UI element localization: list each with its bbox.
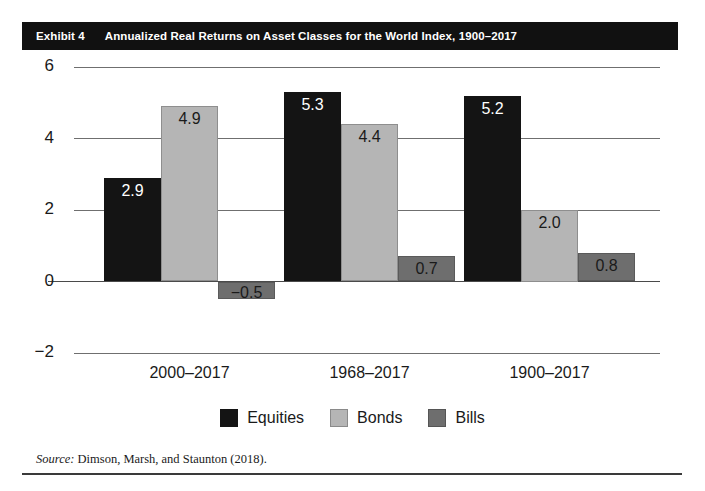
bar-value-label: 5.2	[464, 100, 521, 118]
x-axis-category-label: 1968–2017	[284, 364, 455, 382]
legend-swatch-bills-icon	[428, 409, 446, 427]
source-text: Dimson, Marsh, and Staunton (2018).	[78, 452, 267, 466]
legend-item-bills: Bills	[428, 409, 484, 427]
bar-bills-1	[398, 256, 455, 281]
x-axis-category-label: 1900–2017	[464, 364, 635, 382]
legend-label: Bonds	[357, 409, 402, 427]
bar-bonds-2	[521, 210, 578, 282]
bar-value-label: 0.7	[398, 260, 455, 278]
bar-bonds-0	[161, 106, 218, 281]
gridline-2	[74, 210, 660, 211]
x-axis-category-label: 2000–2017	[104, 364, 275, 382]
chart-legend: EquitiesBondsBills	[0, 409, 705, 427]
bar-value-label: 5.3	[284, 96, 341, 114]
legend-swatch-equities-icon	[220, 409, 238, 427]
bar-bills-0	[218, 282, 275, 300]
axis-zero-line	[48, 281, 660, 282]
bottom-divider	[22, 473, 682, 475]
bar-value-label: 2.0	[521, 214, 578, 232]
bar-value-label: 0.8	[578, 257, 635, 275]
bar-equities-1	[284, 92, 341, 281]
y-axis-tick-label: 6	[14, 56, 54, 76]
legend-label: Equities	[247, 409, 304, 427]
legend-item-equities: Equities	[220, 409, 304, 427]
bar-bonds-1	[341, 124, 398, 281]
bar-equities-0	[104, 178, 161, 282]
gridline-neg2	[74, 353, 660, 354]
legend-swatch-bonds-icon	[330, 409, 348, 427]
legend-label: Bills	[455, 409, 484, 427]
y-axis-tick-label: 0	[14, 271, 54, 291]
bar-value-label: 4.4	[341, 128, 398, 146]
bar-value-label: 2.9	[104, 182, 161, 200]
exhibit-title-text: Annualized Real Returns on Asset Classes…	[105, 30, 517, 42]
exhibit-number-label: Exhibit 4	[36, 30, 85, 42]
bar-bills-2	[578, 253, 635, 282]
gridline-6	[74, 67, 660, 68]
bar-value-label: −0.5	[218, 284, 275, 302]
bar-value-label: 4.9	[161, 110, 218, 128]
y-axis-tick-label: 4	[14, 128, 54, 148]
exhibit-title-bar: Exhibit 4 Annualized Real Returns on Ass…	[22, 22, 678, 50]
source-label: Source:	[36, 452, 74, 466]
source-note: Source: Dimson, Marsh, and Staunton (201…	[36, 452, 267, 467]
bar-equities-2	[464, 96, 521, 282]
legend-item-bonds: Bonds	[330, 409, 402, 427]
y-axis-tick-label: −2	[14, 342, 54, 362]
gridline-4	[74, 138, 660, 139]
y-axis-tick-label: 2	[14, 199, 54, 219]
exhibit-figure: Exhibit 4 Annualized Real Returns on Ass…	[0, 0, 705, 491]
